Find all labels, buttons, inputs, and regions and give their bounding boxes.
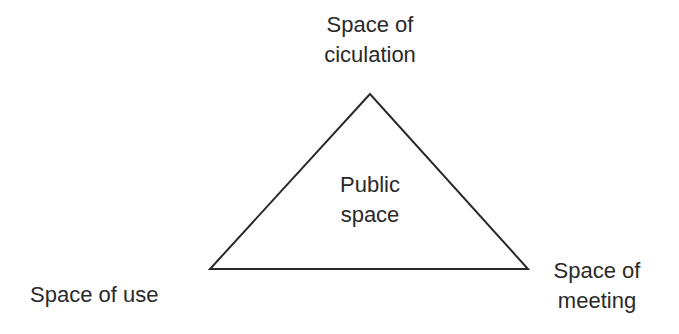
vertex-label-use-line1: Space of use	[30, 280, 210, 310]
vertex-label-use: Space of use	[30, 280, 210, 310]
center-label-line1: Public	[300, 170, 440, 200]
vertex-label-circulation-line1: Space of	[300, 10, 440, 40]
vertex-label-circulation-line2: ciculation	[300, 40, 440, 70]
vertex-label-meeting: Space of meeting	[532, 256, 662, 316]
vertex-label-circulation: Space of ciculation	[300, 10, 440, 70]
diagram-canvas: Space of ciculation Public space Space o…	[0, 0, 679, 334]
vertex-label-meeting-line1: Space of	[532, 256, 662, 286]
center-label-line2: space	[300, 200, 440, 230]
vertex-label-meeting-line2: meeting	[532, 286, 662, 316]
center-label-public-space: Public space	[300, 170, 440, 230]
